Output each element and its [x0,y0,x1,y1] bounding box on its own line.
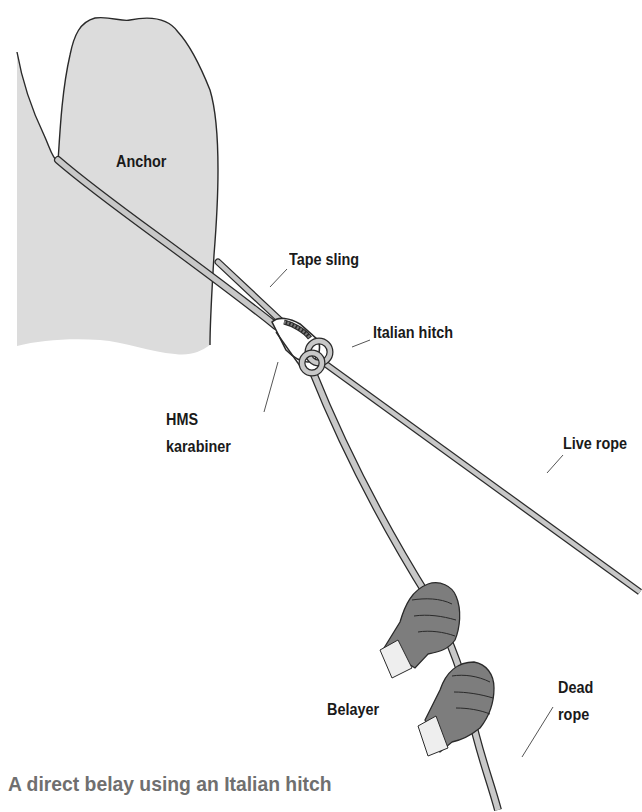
live-rope [320,360,640,592]
italian-hitch-label: Italian hitch [373,323,453,343]
anchor-rock [17,18,218,355]
hms-leader [264,362,278,412]
dead-rope [312,370,498,810]
anchor-label: Anchor [116,152,166,172]
figure-caption: A direct belay using an Italian hitch [8,772,332,796]
belayer-label: Belayer [327,700,379,720]
dead-rope-label-line1: Dead [558,678,593,698]
hms-label-line2: karabiner [166,437,231,457]
tape-sling-leader [270,269,287,287]
italian-hitch-leader [352,340,370,347]
dead-rope-label-line2: rope [558,705,589,725]
lower-glove [418,662,494,756]
belay-diagram [0,0,642,812]
live-rope-label: Live rope [563,434,627,454]
tape-sling-label: Tape sling [289,250,359,270]
dead-rope-leader [522,707,553,757]
live-rope-leader [547,455,563,473]
hms-label-line1: HMS [166,410,198,430]
upper-glove [380,583,460,678]
